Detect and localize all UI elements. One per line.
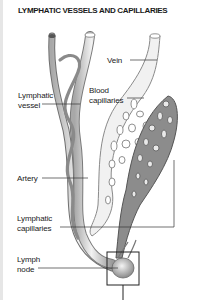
label-lymphatic-vessel: Lymphatic vessel (18, 91, 53, 110)
label-artery: Artery (17, 174, 38, 184)
label-vein: Vein (107, 56, 122, 66)
label-blood-capillaries: Blood capillaries (89, 86, 123, 105)
label-lymphatic-capillaries: Lymphatic capillaries (17, 214, 52, 233)
label-lymph-node: Lymph node (17, 255, 40, 274)
